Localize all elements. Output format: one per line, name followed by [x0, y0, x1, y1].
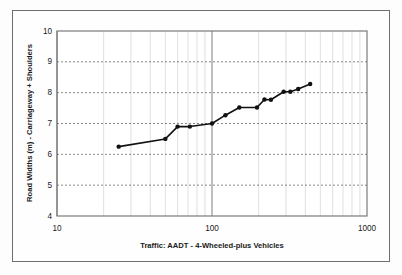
y-tick-4: 4 [47, 212, 52, 221]
data-point [175, 124, 179, 128]
data-point [223, 113, 227, 117]
y-tick-8: 8 [47, 88, 52, 97]
x-tick-10: 10 [52, 224, 62, 233]
data-point [237, 105, 241, 109]
data-point [288, 90, 292, 94]
x-tick-labels: 10 100 1000 [52, 224, 376, 233]
y-axis-title: Road Widths (m) - Carriageway + Shoulder… [25, 44, 34, 202]
data-point [163, 137, 167, 141]
data-point [116, 144, 120, 148]
y-tick-labels: 10 9 8 7 6 5 4 [43, 27, 53, 221]
data-point [255, 105, 259, 109]
data-point [269, 98, 273, 102]
data-point [262, 97, 266, 101]
y-tick-7: 7 [47, 119, 52, 128]
screenshot-page: 10 9 8 7 6 5 4 10 100 1000 Traffic: AADT… [0, 0, 402, 275]
x-tick-100: 100 [205, 224, 219, 233]
data-point [296, 87, 300, 91]
line-chart: 10 9 8 7 6 5 4 10 100 1000 Traffic: AADT… [0, 0, 402, 275]
y-tick-9: 9 [47, 57, 52, 66]
y-tick-6: 6 [47, 150, 52, 159]
x-axis-title: Traffic: AADT - 4-Wheeled-plus Vehicles [140, 241, 284, 250]
y-tick-10: 10 [43, 27, 53, 36]
x-tick-1000: 1000 [358, 224, 377, 233]
data-point [281, 90, 285, 94]
data-point [210, 121, 214, 125]
y-tick-5: 5 [47, 181, 52, 190]
data-point [188, 124, 192, 128]
chart-svg: 10 9 8 7 6 5 4 10 100 1000 Traffic: AADT… [0, 0, 402, 275]
data-point [308, 82, 312, 86]
